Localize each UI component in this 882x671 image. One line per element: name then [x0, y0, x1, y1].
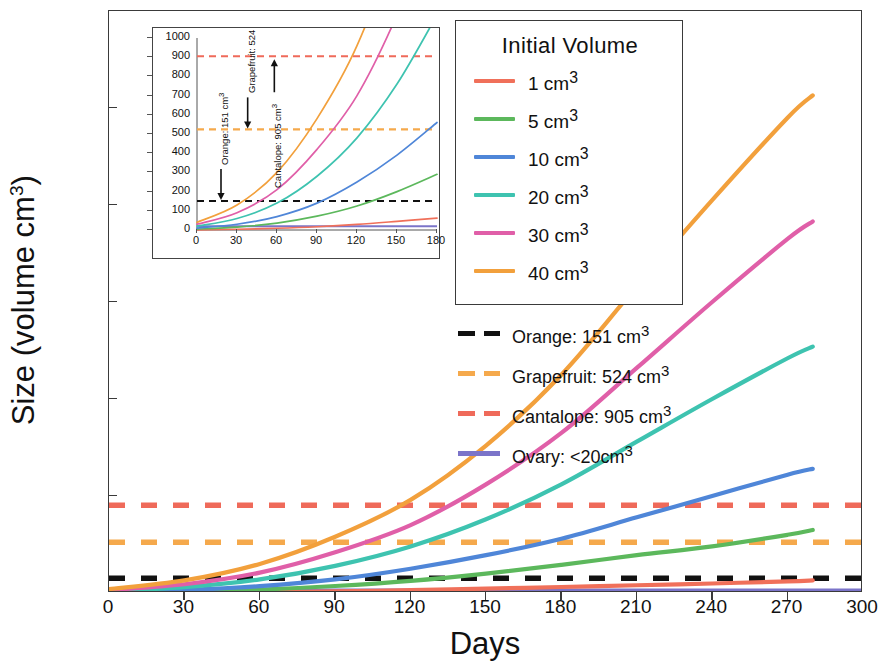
y-tick-mark — [108, 301, 117, 302]
inset-y-tick-label: 800 — [150, 68, 190, 80]
reference-legend-label: Cantalope: 905 cm3 — [512, 402, 671, 428]
inset-y-tick-mark — [147, 37, 152, 38]
x-tick-mark — [787, 592, 788, 600]
inset-x-tick-mark — [196, 229, 197, 233]
inset-y-tick-label: 200 — [150, 184, 190, 196]
legend-swatch — [474, 231, 515, 235]
legend-item-label: 1 cm3 — [528, 69, 578, 95]
legend-swatch — [474, 117, 515, 121]
inset-series-line-20cm3 — [197, 28, 437, 226]
inset-y-tick-mark — [147, 229, 152, 230]
inset-annotation-orange: Orange: 151 cm3 — [217, 92, 230, 165]
y-tick-mark — [108, 495, 117, 496]
x-axis-title: Days — [108, 626, 862, 662]
legend-item-label: 40 cm3 — [528, 259, 589, 285]
y-tick-mark — [108, 107, 117, 108]
inset-annotation-arrowhead — [244, 121, 251, 128]
inset-x-tick-label: 150 — [379, 234, 413, 246]
inset-y-tick-mark — [147, 152, 152, 153]
inset-y-tick-mark — [147, 95, 152, 96]
inset-y-tick-label: 600 — [150, 107, 190, 119]
inset-x-tick-mark — [236, 229, 237, 233]
inset-x-tick-mark — [396, 229, 397, 233]
inset-y-tick-label: 900 — [150, 49, 190, 61]
reference-legend-swatch — [458, 451, 500, 456]
x-tick-mark — [334, 592, 335, 600]
legend-swatch — [474, 155, 515, 159]
inset-x-tick-label: 180 — [419, 234, 453, 246]
legend-swatch — [474, 193, 515, 197]
reference-legend-label: Orange: 151 cm3 — [512, 322, 649, 348]
inset-plot-area: Orange: 151 cm3Grapefruit: 524 cm3Cantal… — [152, 27, 440, 259]
inset-y-tick-label: 1000 — [150, 30, 190, 42]
x-tick-label: 0 — [78, 596, 138, 618]
x-tick-mark — [183, 592, 184, 600]
inset-y-tick-mark — [147, 210, 152, 211]
inset-x-tick-mark — [356, 229, 357, 233]
inset-x-tick-label: 60 — [259, 234, 293, 246]
inset-y-tick-mark — [147, 191, 152, 192]
x-tick-label: 300 — [832, 596, 882, 618]
inset-y-tick-label: 0 — [150, 222, 190, 234]
inset-plot-svg — [153, 28, 440, 259]
inset-y-tick-mark — [147, 171, 152, 172]
inset-annotation-grapefruit: Grapefruit: 524 cm3 — [244, 27, 257, 93]
inset-y-tick-mark — [147, 133, 152, 134]
inset-x-tick-label: 0 — [179, 234, 213, 246]
inset-y-tick-label: 400 — [150, 145, 190, 157]
inset-annotation-arrowhead — [217, 193, 224, 200]
inset-y-tick-label: 300 — [150, 164, 190, 176]
inset-y-tick-label: 100 — [150, 203, 190, 215]
x-tick-mark — [560, 592, 561, 600]
y-tick-mark — [108, 204, 117, 205]
inset-annotation-cantalope: Cantalope: 905 cm3 — [270, 104, 283, 188]
reference-legend-label: Ovary: <20cm3 — [512, 442, 633, 468]
inset-x-tick-label: 30 — [219, 234, 253, 246]
reference-legend-label: Grapefruit: 524 cm3 — [512, 362, 669, 388]
series-legend-box: Initial Volume 1 cm35 cm310 cm320 cm330 … — [455, 20, 683, 305]
inset-y-tick-mark — [147, 56, 152, 57]
inset-x-tick-label: 120 — [339, 234, 373, 246]
reference-legend-swatch — [458, 371, 500, 376]
reference-legend-swatch — [458, 411, 500, 416]
series-line-20cm3 — [109, 347, 813, 591]
inset-y-tick-label: 700 — [150, 88, 190, 100]
x-tick-mark — [711, 592, 712, 600]
reference-legend-swatch — [458, 331, 500, 336]
inset-x-tick-mark — [276, 229, 277, 233]
x-tick-mark — [410, 592, 411, 600]
x-tick-mark — [485, 592, 486, 600]
y-tick-mark — [108, 398, 117, 399]
legend-title: Initial Volume — [456, 33, 684, 59]
inset-x-tick-mark — [436, 229, 437, 233]
inset-y-tick-mark — [147, 114, 152, 115]
legend-item-label: 10 cm3 — [528, 145, 589, 171]
legend-swatch — [474, 269, 515, 273]
x-tick-mark — [636, 592, 637, 600]
inset-annotation-arrowhead — [271, 59, 278, 66]
y-axis-title: Size (volume cm3) — [6, 90, 42, 510]
legend-item-label: 30 cm3 — [528, 221, 589, 247]
inset-series-line-30cm3 — [197, 28, 437, 224]
legend-item-label: 5 cm3 — [528, 107, 578, 133]
legend-item-label: 20 cm3 — [528, 183, 589, 209]
legend-swatch — [474, 79, 515, 83]
x-tick-mark — [259, 592, 260, 600]
inset-y-tick-mark — [147, 75, 152, 76]
inset-x-tick-label: 90 — [299, 234, 333, 246]
inset-x-tick-mark — [316, 229, 317, 233]
inset-y-tick-label: 500 — [150, 126, 190, 138]
